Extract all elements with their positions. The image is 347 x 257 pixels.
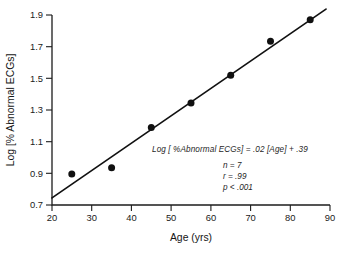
data-point bbox=[188, 99, 195, 106]
y-axis-ticks bbox=[46, 15, 52, 205]
scatter-plot: 0.7 0.9 1.1 1.3 1.5 1.7 1.9 20 30 40 50 … bbox=[0, 0, 347, 257]
y-tick-label: 1.3 bbox=[30, 104, 43, 115]
annotation-equation: Log [ %Abnormal ECGs] = .02 [Age] + .39 bbox=[152, 145, 308, 154]
x-tick-label: 60 bbox=[206, 212, 216, 223]
y-tick-label: 1.5 bbox=[30, 73, 43, 84]
figure-container: 0.7 0.9 1.1 1.3 1.5 1.7 1.9 20 30 40 50 … bbox=[0, 0, 347, 257]
x-tick-label: 20 bbox=[47, 212, 57, 223]
data-point bbox=[68, 171, 75, 178]
x-axis-tick-labels: 20 30 40 50 60 70 80 90 bbox=[47, 212, 335, 223]
y-tick-label: 1.7 bbox=[30, 41, 43, 52]
x-axis-title: Age (yrs) bbox=[170, 232, 212, 243]
x-tick-label: 40 bbox=[126, 212, 136, 223]
y-axis-title: Log [% Abnormal ECGs] bbox=[5, 54, 16, 167]
annotation-p-value: p < .001 bbox=[222, 183, 253, 192]
x-tick-label: 80 bbox=[285, 212, 295, 223]
y-tick-label: 1.9 bbox=[30, 9, 43, 20]
y-tick-label: 0.7 bbox=[30, 199, 43, 210]
data-point bbox=[227, 72, 234, 79]
clipped-caption-text bbox=[0, 249, 347, 257]
data-point bbox=[307, 16, 314, 23]
x-axis-ticks bbox=[52, 205, 330, 211]
annotation-sample-size: n = 7 bbox=[223, 161, 242, 170]
x-tick-label: 70 bbox=[245, 212, 255, 223]
x-tick-label: 50 bbox=[166, 212, 176, 223]
x-tick-label: 30 bbox=[86, 212, 96, 223]
data-point bbox=[108, 164, 115, 171]
data-point bbox=[148, 124, 155, 131]
annotation-correlation: r = .99 bbox=[223, 172, 247, 181]
y-tick-label: 0.9 bbox=[30, 168, 43, 179]
data-point bbox=[267, 38, 274, 45]
axis-spines bbox=[52, 15, 330, 205]
y-tick-label: 1.1 bbox=[30, 136, 43, 147]
y-axis-tick-labels: 0.7 0.9 1.1 1.3 1.5 1.7 1.9 bbox=[30, 9, 43, 210]
x-tick-label: 90 bbox=[325, 212, 335, 223]
